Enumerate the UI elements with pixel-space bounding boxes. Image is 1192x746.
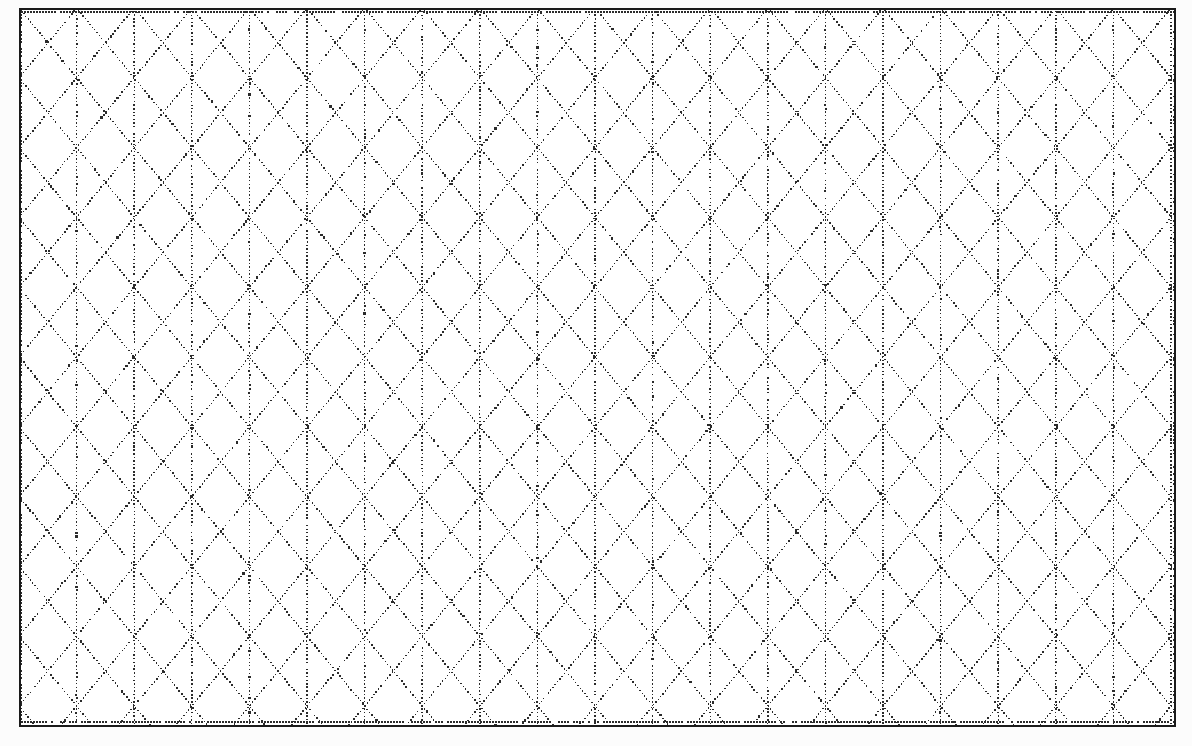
ruled-frame — [19, 8, 1176, 727]
page-canvas: Isometric Triangular Dot-Grid Sheet A re… — [0, 0, 1192, 746]
isometric-dot-lattice — [19, 8, 1176, 727]
